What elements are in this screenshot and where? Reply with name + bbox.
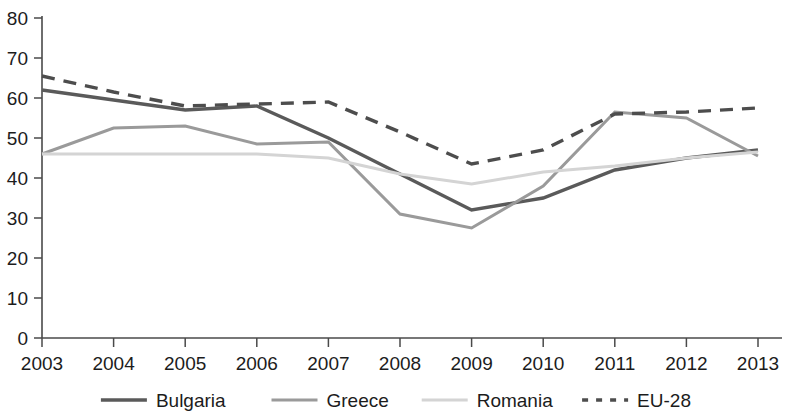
y-tick-label: 50 [7,128,28,149]
x-axis-ticks: 2003200420052006200720082009201020112012… [21,338,779,374]
y-tick-label: 70 [7,48,28,69]
legend-label-greece: Greece [327,390,389,411]
x-tick-label: 2005 [164,353,206,374]
x-tick-label: 2012 [665,353,707,374]
y-tick-label: 80 [7,8,28,29]
x-tick-label: 2011 [594,353,635,374]
x-tick-label: 2004 [92,353,135,374]
x-tick-label: 2003 [21,353,63,374]
x-tick-label: 2008 [379,353,421,374]
series-line-bulgaria [42,90,758,210]
y-tick-label: 20 [7,248,28,269]
y-tick-label: 40 [7,168,28,189]
y-tick-label: 0 [17,328,28,349]
data-series-group [42,76,758,228]
series-line-romania [42,152,758,184]
series-line-eu-28 [42,76,758,164]
legend-label-bulgaria: Bulgaria [156,390,226,411]
legend-label-eu-28: EU-28 [637,390,691,411]
x-tick-label: 2013 [737,353,779,374]
line-chart: 01020304050607080 2003200420052006200720… [0,0,789,419]
y-tick-label: 30 [7,208,28,229]
legend-label-romania: Romania [477,390,553,411]
x-tick-label: 2006 [236,353,278,374]
chart-legend: BulgariaGreeceRomaniaEU-28 [101,390,691,411]
series-line-greece [42,112,758,228]
x-tick-label: 2010 [522,353,564,374]
y-tick-label: 10 [7,288,28,309]
y-axis-ticks: 01020304050607080 [7,8,42,349]
chart-canvas: 01020304050607080 2003200420052006200720… [0,0,789,419]
x-tick-label: 2007 [307,353,349,374]
y-tick-label: 60 [7,88,28,109]
x-tick-label: 2009 [450,353,492,374]
